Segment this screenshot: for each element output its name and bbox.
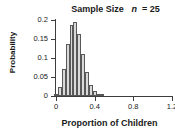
chart-title-variable: n	[131, 4, 137, 14]
y-tick	[51, 58, 55, 59]
y-tick-label: 0.1	[18, 53, 48, 62]
x-tick	[56, 97, 57, 101]
y-tick-label: 0.2	[18, 15, 48, 24]
y-tick	[51, 20, 55, 21]
y-axis-label: Probability	[8, 13, 17, 93]
x-tick-label: 0.4	[83, 102, 107, 111]
x-tick	[95, 97, 96, 101]
x-tick	[133, 97, 134, 101]
y-tick	[51, 96, 55, 97]
chart-title-prefix: Sample Size	[71, 4, 124, 14]
histogram-bar	[100, 94, 104, 96]
plot-area	[56, 20, 172, 96]
x-tick	[172, 97, 173, 101]
chart-title-value: = 25	[142, 4, 160, 14]
x-tick-label: 0.8	[121, 102, 145, 111]
y-tick	[51, 77, 55, 78]
y-tick-label: 0	[18, 91, 48, 100]
y-tick-label: 0.05	[18, 72, 48, 81]
chart-title: Sample Size n = 25	[58, 4, 173, 14]
x-axis-line	[55, 96, 173, 97]
y-tick-label: 0.15	[18, 34, 48, 43]
y-tick	[51, 39, 55, 40]
x-axis-label: Proportion of Children	[44, 118, 175, 128]
histogram-figure: Sample Size n = 25 Probability Proportio…	[0, 0, 175, 132]
x-tick-label: 1.2	[160, 102, 175, 111]
x-tick-label: 0	[44, 102, 68, 111]
